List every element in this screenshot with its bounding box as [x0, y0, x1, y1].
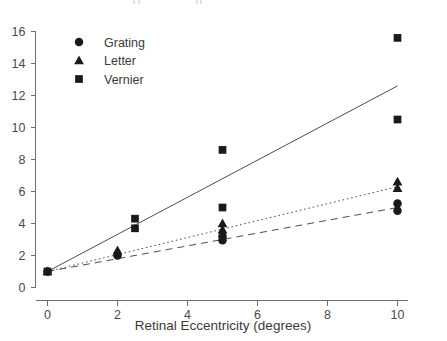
legend-label-vernier: Vernier	[104, 73, 144, 87]
data-point-vernier	[219, 146, 227, 154]
legend-marker-vernier	[75, 75, 83, 83]
y-tick-label: 14	[12, 57, 26, 71]
cut-off-title	[133, 0, 202, 4]
data-point-vernier	[131, 224, 139, 232]
data-point-grating	[218, 236, 227, 245]
title-remnant	[138, 0, 140, 4]
data-point-vernier	[131, 215, 139, 223]
chart-container: 0246810121416 0246810 GratingLetterVerni…	[0, 0, 447, 341]
y-tick-label: 10	[12, 121, 26, 135]
y-tick-label: 6	[19, 185, 26, 199]
data-point-vernier	[394, 116, 402, 124]
title-remnant	[133, 0, 135, 4]
legend-marker-grating	[75, 38, 84, 47]
y-tick-label: 16	[12, 25, 26, 39]
data-point-vernier	[394, 34, 402, 42]
scatter-plot: 0246810121416 0246810 GratingLetterVerni…	[0, 0, 447, 341]
x-tick-label: 2	[114, 308, 121, 322]
title-remnant	[200, 0, 202, 4]
legend-marker-letter	[74, 55, 84, 64]
x-tick-label: 0	[44, 308, 51, 322]
axes-group	[36, 32, 408, 301]
title-remnant	[196, 0, 198, 4]
x-tick-label: 8	[324, 308, 331, 322]
data-markers	[43, 34, 403, 276]
y-tick-label: 8	[19, 153, 26, 167]
data-point-vernier	[219, 204, 227, 212]
legend: GratingLetterVernier	[74, 36, 145, 87]
legend-label-letter: Letter	[104, 54, 136, 68]
legend-label-grating: Grating	[104, 36, 145, 50]
data-point-vernier	[44, 268, 52, 276]
x-tick-label: 10	[391, 308, 405, 322]
x-axis-title: Retinal Eccentricity (degrees)	[135, 318, 311, 333]
y-tick-label: 2	[19, 249, 26, 263]
data-point-letter	[113, 246, 123, 255]
data-point-grating	[393, 206, 402, 215]
y-tick-label: 0	[19, 281, 26, 295]
y-axis-ticks: 0246810121416	[12, 25, 36, 295]
y-tick-label: 4	[19, 217, 26, 231]
y-tick-label: 12	[12, 89, 26, 103]
